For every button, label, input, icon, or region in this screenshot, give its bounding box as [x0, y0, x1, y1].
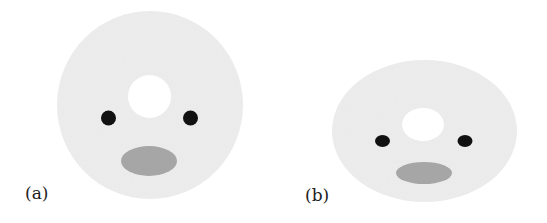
panel-label-a: (a) — [25, 185, 48, 202]
mouth-b — [396, 162, 452, 184]
mouth-a — [121, 146, 177, 176]
left-eye-b — [375, 135, 390, 147]
phantom-figure: (a) (b) — [0, 0, 547, 223]
panel-b — [332, 60, 517, 202]
left-eye-a — [101, 111, 116, 126]
phantom-canvas — [0, 0, 547, 223]
panel-a — [57, 11, 243, 199]
panel-label-b: (b) — [305, 187, 329, 204]
right-eye-a — [183, 111, 198, 126]
center-hole-b — [402, 108, 444, 141]
center-hole-a — [128, 75, 171, 118]
right-eye-b — [458, 135, 473, 147]
